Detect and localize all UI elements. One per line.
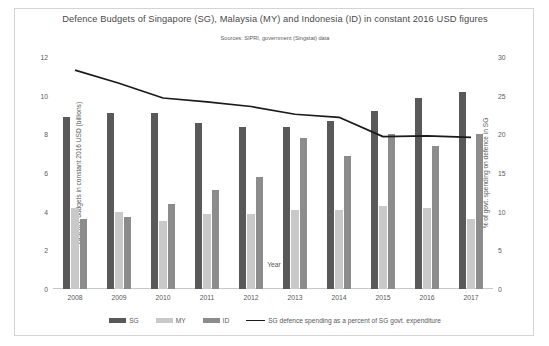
chart-frame: Defence Budgets of Singapore (SG), Malay… — [14, 8, 534, 336]
y-tick-left: 6 — [44, 170, 48, 177]
legend-label: SG defence spending as a percent of SG g… — [268, 317, 441, 324]
x-tick-label: 2013 — [287, 294, 302, 301]
bar-my — [247, 214, 254, 289]
y-tick-right: 15 — [498, 170, 506, 177]
bar-my — [467, 219, 474, 289]
legend-swatch-icon — [156, 318, 173, 323]
x-axis-label: Year — [15, 261, 533, 268]
bar-group: 2016 — [405, 57, 449, 289]
bar-id — [168, 204, 175, 289]
bar-sg — [459, 92, 466, 289]
y-tick-right: 25 — [498, 92, 506, 99]
bar-group: 2015 — [361, 57, 405, 289]
legend-swatch-icon — [203, 318, 220, 323]
y-tick-right: 0 — [498, 286, 502, 293]
x-tick-label: 2010 — [155, 294, 170, 301]
y-tick-left: 12 — [40, 54, 48, 61]
legend-swatch-icon — [109, 318, 126, 323]
bar-id — [124, 217, 131, 289]
legend-label: ID — [223, 317, 230, 324]
x-tick-label: 2017 — [463, 294, 478, 301]
y-tick-right: 5 — [498, 247, 502, 254]
bar-id — [344, 156, 351, 289]
legend-item[interactable]: SG — [109, 317, 139, 324]
x-tick-label: 2011 — [200, 294, 215, 301]
legend-item[interactable]: MY — [156, 317, 186, 324]
legend-item[interactable]: ID — [203, 317, 230, 324]
x-tick-label: 2008 — [67, 294, 82, 301]
y-tick-left: 4 — [44, 208, 48, 215]
y-tick-right: 20 — [498, 131, 506, 138]
bar-my — [203, 214, 210, 289]
bar-my — [71, 208, 78, 289]
y-tick-left: 0 — [44, 286, 48, 293]
bar-group: 2008 — [53, 57, 97, 289]
bar-group: 2009 — [97, 57, 141, 289]
y-tick-right: 10 — [498, 208, 506, 215]
bar-group: 2010 — [141, 57, 185, 289]
legend-label: SG — [129, 317, 139, 324]
bar-my — [423, 208, 430, 289]
bar-id — [256, 177, 263, 289]
x-tick-label: 2014 — [331, 294, 346, 301]
bar-group: 2017 — [449, 57, 493, 289]
bar-my — [379, 206, 386, 289]
bar-my — [115, 212, 122, 289]
bar-id — [212, 190, 219, 289]
legend-item[interactable]: SG defence spending as a percent of SG g… — [246, 317, 441, 324]
bar-group: 2013 — [273, 57, 317, 289]
bar-my — [335, 210, 342, 289]
legend-line-icon — [246, 320, 265, 321]
legend-label: MY — [176, 317, 186, 324]
chart-title: Defence Budgets of Singapore (SG), Malay… — [15, 14, 535, 24]
bar-my — [159, 221, 166, 289]
x-tick-label: 2012 — [243, 294, 258, 301]
plot-area: Defence budgets in constant 2016 USD (bi… — [53, 57, 493, 289]
y-tick-left: 10 — [40, 92, 48, 99]
x-tick-label: 2016 — [419, 294, 434, 301]
bar-my — [291, 210, 298, 289]
y-tick-left: 2 — [44, 247, 48, 254]
bar-id — [80, 219, 87, 289]
x-tick-label: 2015 — [375, 294, 390, 301]
bar-group: 2012 — [229, 57, 273, 289]
bar-group: 2011 — [185, 57, 229, 289]
chart-subtitle: Sources: SIPRI, government (Singstat) da… — [15, 35, 535, 41]
y-tick-left: 8 — [44, 131, 48, 138]
y-tick-right: 30 — [498, 54, 506, 61]
bar-group: 2014 — [317, 57, 361, 289]
x-tick-label: 2009 — [111, 294, 126, 301]
chart-legend: SGMYIDSG defence spending as a percent o… — [15, 317, 535, 324]
